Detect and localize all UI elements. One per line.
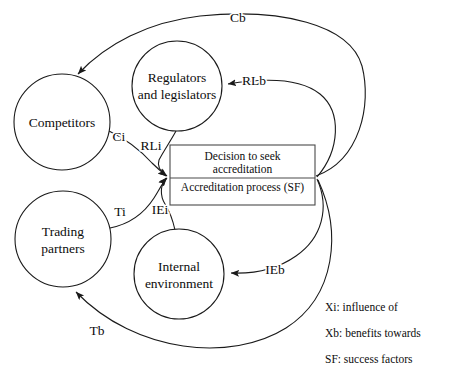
edge-label-RLi: RLi xyxy=(140,138,161,153)
legend-line-xb: Xb: benefits towards xyxy=(325,327,421,339)
decision-label-line1: Decision to seek xyxy=(204,150,280,162)
trading-partners-label-line1: Trading xyxy=(42,224,85,239)
legend-line-xi: Xi: influence of xyxy=(325,301,398,313)
edge-label-Ci: Ci xyxy=(113,129,126,144)
edge-label-IEb: IEb xyxy=(265,262,285,277)
diagram-canvas: Decision to seek accreditation Accredita… xyxy=(0,0,459,381)
node-competitors[interactable]: Competitors xyxy=(14,74,110,170)
edge-label-RLb: RLb xyxy=(242,73,266,88)
internal-environment-circle xyxy=(134,229,224,319)
accreditation-process-label: Accreditation process (SF) xyxy=(181,181,304,194)
accreditation-box[interactable]: Decision to seek accreditation Accredita… xyxy=(170,145,315,205)
regulators-label-line2: and legislators xyxy=(138,87,216,102)
regulators-circle xyxy=(132,41,222,131)
decision-label-line2: accreditation xyxy=(213,163,273,175)
trading-partners-label-line2: partners xyxy=(41,241,84,256)
regulators-label-line1: Regulators xyxy=(148,70,207,85)
edge-label-Ti: Ti xyxy=(114,204,126,219)
edge-label-IEi: IEi xyxy=(152,202,169,217)
node-regulators[interactable]: Regulators and legislators xyxy=(132,41,222,131)
competitors-label: Competitors xyxy=(29,115,96,130)
legend: Xi: influence of Xb: benefits towards SF… xyxy=(325,301,421,365)
diagram-svg: Decision to seek accreditation Accredita… xyxy=(0,0,459,381)
node-trading-partners[interactable]: Trading partners xyxy=(15,191,111,287)
edge-label-Cb: Cb xyxy=(230,10,246,25)
internal-environment-label-line1: Internal xyxy=(158,259,200,274)
edge-label-Tb: Tb xyxy=(90,323,105,338)
trading-partners-circle xyxy=(15,191,111,287)
legend-line-sf: SF: success factors xyxy=(325,353,413,365)
internal-environment-label-line2: environment xyxy=(145,276,213,291)
node-internal-environment[interactable]: Internal environment xyxy=(134,229,224,319)
